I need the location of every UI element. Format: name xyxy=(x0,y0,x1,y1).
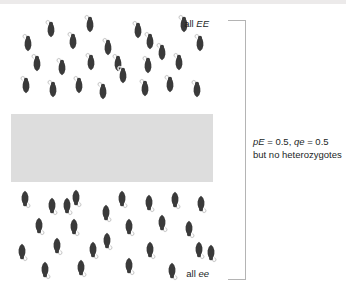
label-all-EE: all EE xyxy=(184,18,209,30)
caption-q-symbol: qe xyxy=(294,136,305,147)
mouse-ee xyxy=(45,196,59,216)
caption-p-symbol: pE xyxy=(253,136,265,147)
mouse-EE xyxy=(55,57,69,77)
population-bracket xyxy=(228,20,246,280)
mouse-ee xyxy=(100,231,114,251)
mouse-ee xyxy=(194,194,208,214)
mouse-ee xyxy=(50,236,64,256)
label-bottom-allele: ee xyxy=(198,268,209,279)
mouse-EE xyxy=(84,52,98,72)
mouse-ee xyxy=(38,260,52,280)
caption-p-value: = 0.5, xyxy=(265,136,294,147)
mouse-ee xyxy=(165,261,179,281)
mouse-EE xyxy=(190,79,204,99)
grey-barrier-band xyxy=(11,114,213,182)
label-bottom-prefix: all xyxy=(186,268,198,279)
mouse-EE xyxy=(163,74,177,94)
mouse-ee xyxy=(74,258,88,278)
mouse-ee xyxy=(168,190,182,210)
mouse-EE xyxy=(155,42,169,62)
label-all-ee: all ee xyxy=(186,268,209,280)
mouse-ee xyxy=(155,213,169,233)
mouse-ee xyxy=(60,196,74,216)
label-top-allele: EE xyxy=(196,18,209,29)
caption-line-2: but no heterozygotes xyxy=(253,149,342,162)
population-figure: all EE all ee pE = 0.5, qe = 0.5 but no … xyxy=(0,0,346,298)
mouse-ee xyxy=(142,193,156,213)
mouse-EE xyxy=(141,55,155,75)
mouse-EE xyxy=(83,14,97,34)
mouse-ee xyxy=(182,219,196,239)
mouse-ee xyxy=(15,242,29,262)
mouse-ee xyxy=(122,217,136,237)
mouse-EE xyxy=(138,78,152,98)
mouse-ee xyxy=(32,216,46,236)
mouse-EE xyxy=(116,65,130,85)
mouse-EE xyxy=(96,81,110,101)
top-edge-strip xyxy=(0,0,346,4)
caption-line-1: pE = 0.5, qe = 0.5 xyxy=(253,136,342,149)
mouse-ee xyxy=(143,240,157,260)
label-top-prefix: all xyxy=(184,18,196,29)
mouse-EE xyxy=(193,33,207,53)
mouse-ee xyxy=(99,203,113,223)
mouse-EE xyxy=(19,75,33,95)
mouse-EE xyxy=(44,19,58,39)
mouse-EE xyxy=(30,53,44,73)
mouse-EE xyxy=(21,33,35,53)
mouse-ee xyxy=(122,256,136,276)
mouse-ee xyxy=(18,189,32,209)
allele-frequency-caption: pE = 0.5, qe = 0.5 but no heterozygotes xyxy=(253,136,342,161)
mouse-ee xyxy=(67,217,81,237)
mouse-EE xyxy=(46,79,60,99)
mouse-EE xyxy=(172,52,186,72)
mouse-ee xyxy=(115,189,129,209)
mouse-ee xyxy=(204,243,218,263)
mouse-EE xyxy=(66,31,80,51)
mouse-ee xyxy=(86,240,100,260)
caption-q-value: = 0.5 xyxy=(305,136,329,147)
mouse-EE xyxy=(72,75,86,95)
